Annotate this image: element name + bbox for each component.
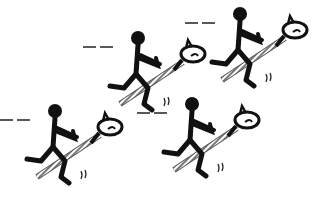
rider-top-middle: [83, 31, 205, 110]
rider-top-right: [185, 7, 307, 86]
rider-bottom-left: [0, 104, 122, 183]
illustration: [0, 0, 322, 205]
rider-bottom-middle: [137, 97, 259, 176]
